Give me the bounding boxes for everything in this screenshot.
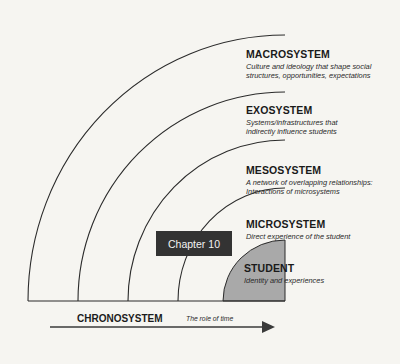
mesosystem-description: A network of overlapping relationships: … [246,178,396,196]
exosystem-title: EXOSYSTEM [246,104,366,116]
macrosystem-description: Culture and ideology that shape social s… [246,62,396,80]
exosystem-label: EXOSYSTEM Systems/infrastructures that i… [246,104,366,136]
student-title: STUDENT [244,262,394,274]
macrosystem-title: MACROSYSTEM [246,48,396,60]
microsystem-title: MICROSYSTEM [246,218,396,230]
mesosystem-title: MESOSYSTEM [246,164,396,176]
chronosystem-description: The role of time [186,315,233,322]
chronosystem-title: CHRONOSYSTEM [77,313,163,324]
mesosystem-label: MESOSYSTEM A network of overlapping rela… [246,164,396,196]
microsystem-label: MICROSYSTEM Direct experience of the stu… [246,218,396,241]
exosystem-description: Systems/infrastructures that indirectly … [246,118,366,136]
macrosystem-label: MACROSYSTEM Culture and ideology that sh… [246,48,396,80]
chapter-tag: Chapter 10 [156,231,232,256]
student-description: Identity and experiences [244,276,394,285]
chronosystem-arrow-head [262,321,275,333]
student-label: STUDENT Identity and experiences [244,262,394,285]
microsystem-description: Direct experience of the student [246,232,396,241]
